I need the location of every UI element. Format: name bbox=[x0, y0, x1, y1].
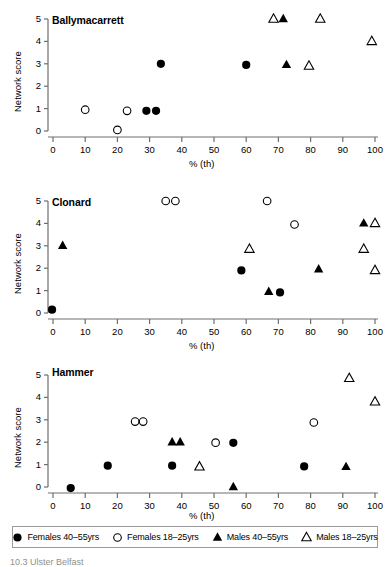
open-triangle-icon bbox=[301, 532, 312, 543]
data-point-open-triangle bbox=[195, 462, 204, 470]
series-group bbox=[195, 373, 380, 470]
x-tick-label: 90 bbox=[329, 144, 357, 155]
data-point-filled-triangle bbox=[282, 60, 291, 68]
x-tick-label: 30 bbox=[136, 144, 164, 155]
legend-item-males_40_55[interactable]: Males 40–55yrs bbox=[212, 532, 288, 543]
y-tick-label: 4 bbox=[25, 391, 41, 402]
data-point-filled-circle bbox=[67, 484, 75, 492]
data-point-filled-circle bbox=[14, 533, 22, 541]
x-tick-label: 0 bbox=[39, 500, 67, 511]
x-tick-label: 80 bbox=[297, 500, 325, 511]
x-tick-label: 70 bbox=[264, 326, 292, 337]
y-tick-label: 3 bbox=[25, 58, 41, 69]
y-tick-label: 2 bbox=[25, 262, 41, 273]
x-tick-label: 10 bbox=[71, 144, 99, 155]
panel-title: Hammer bbox=[52, 366, 93, 378]
x-tick-label: 70 bbox=[264, 144, 292, 155]
legend-item-females_40_55[interactable]: Females 40–55yrs bbox=[12, 532, 99, 543]
filled-circle-icon bbox=[12, 532, 23, 543]
panel-title: Clonard bbox=[52, 196, 91, 208]
data-point-open-circle bbox=[131, 418, 139, 426]
data-point-filled-circle bbox=[142, 107, 150, 115]
legend-item-females_18_25[interactable]: Females 18–25yrs bbox=[112, 532, 199, 543]
legend-item-males_18_25[interactable]: Males 18–25yrs bbox=[301, 532, 377, 543]
panel-title: Ballymacarrett bbox=[52, 14, 124, 26]
figure-caption: 10.3 Ulster Belfast bbox=[10, 557, 84, 567]
x-tick-label: 0 bbox=[39, 326, 67, 337]
y-tick-label: 3 bbox=[25, 240, 41, 251]
series-group bbox=[142, 60, 250, 115]
y-axis-label: Network score bbox=[12, 233, 23, 294]
data-point-filled-circle bbox=[152, 107, 160, 115]
series-group bbox=[279, 14, 292, 68]
x-tick-label: 80 bbox=[297, 326, 325, 337]
y-tick-label: 0 bbox=[25, 481, 41, 492]
data-point-open-triangle bbox=[345, 373, 354, 381]
data-point-open-circle bbox=[139, 418, 147, 426]
data-point-filled-circle bbox=[104, 462, 112, 470]
x-tick-label: 40 bbox=[168, 144, 196, 155]
x-tick-label: 60 bbox=[232, 326, 260, 337]
data-point-open-circle bbox=[291, 221, 299, 229]
y-tick-label: 4 bbox=[25, 35, 41, 46]
x-tick-label: 20 bbox=[103, 326, 131, 337]
y-tick-label: 1 bbox=[25, 103, 41, 114]
data-point-filled-triangle bbox=[264, 287, 273, 295]
data-point-filled-circle bbox=[168, 462, 176, 470]
series-group bbox=[67, 439, 309, 492]
y-tick-label: 5 bbox=[25, 195, 41, 206]
data-point-open-circle bbox=[123, 107, 131, 115]
series-group bbox=[81, 106, 130, 134]
data-point-filled-circle bbox=[237, 266, 245, 274]
data-point-open-triangle bbox=[316, 14, 325, 22]
series-group bbox=[162, 197, 298, 228]
data-point-filled-triangle bbox=[279, 14, 288, 22]
x-tick-label: 100 bbox=[361, 326, 389, 337]
x-tick-label: 90 bbox=[329, 326, 357, 337]
x-tick-label: 50 bbox=[200, 500, 228, 511]
y-tick-label: 0 bbox=[25, 125, 41, 136]
data-point-open-circle bbox=[212, 439, 220, 447]
data-point-open-circle bbox=[81, 106, 89, 114]
legend-label: Females 18–25yrs bbox=[127, 532, 199, 542]
data-point-open-triangle bbox=[370, 265, 379, 273]
y-tick-label: 4 bbox=[25, 217, 41, 228]
x-tick-label: 50 bbox=[200, 144, 228, 155]
chart-panel-ballymacarrett: Ballymacarrett Network score % (th) 0123… bbox=[0, 0, 392, 175]
open-circle-icon bbox=[112, 532, 123, 543]
data-point-filled-circle bbox=[229, 439, 237, 447]
legend-label: Males 40–55yrs bbox=[227, 532, 288, 542]
data-point-open-triangle bbox=[370, 397, 379, 405]
y-tick-label: 2 bbox=[25, 436, 41, 447]
y-tick-label: 5 bbox=[25, 369, 41, 380]
y-axis-label: Network score bbox=[12, 51, 23, 112]
data-point-filled-triangle bbox=[58, 241, 67, 249]
data-point-open-circle bbox=[162, 197, 170, 205]
series-group bbox=[48, 266, 284, 313]
x-axis-label: % (th) bbox=[189, 340, 214, 351]
y-axis-label: Network score bbox=[12, 407, 23, 468]
data-point-filled-circle bbox=[300, 462, 308, 470]
x-tick-label: 40 bbox=[168, 326, 196, 337]
y-tick-label: 2 bbox=[25, 80, 41, 91]
chart-panel-clonard: Clonard Network score % (th) 01234501020… bbox=[0, 182, 392, 357]
x-tick-label: 20 bbox=[103, 144, 131, 155]
x-tick-label: 40 bbox=[168, 500, 196, 511]
data-point-filled-circle bbox=[242, 61, 250, 69]
y-tick-label: 1 bbox=[25, 285, 41, 296]
x-tick-label: 100 bbox=[361, 500, 389, 511]
x-tick-label: 10 bbox=[71, 500, 99, 511]
x-tick-label: 80 bbox=[297, 144, 325, 155]
x-tick-label: 100 bbox=[361, 144, 389, 155]
data-point-filled-triangle bbox=[341, 462, 350, 470]
x-tick-label: 50 bbox=[200, 326, 228, 337]
x-axis-label: % (th) bbox=[189, 158, 214, 169]
data-point-filled-circle bbox=[157, 60, 165, 68]
data-point-open-triangle bbox=[359, 244, 368, 252]
x-tick-label: 30 bbox=[136, 500, 164, 511]
y-tick-label: 3 bbox=[25, 414, 41, 425]
x-tick-label: 10 bbox=[71, 326, 99, 337]
x-axis-label: % (th) bbox=[189, 510, 214, 521]
data-point-filled-triangle bbox=[213, 532, 222, 540]
data-point-open-triangle bbox=[370, 218, 379, 226]
